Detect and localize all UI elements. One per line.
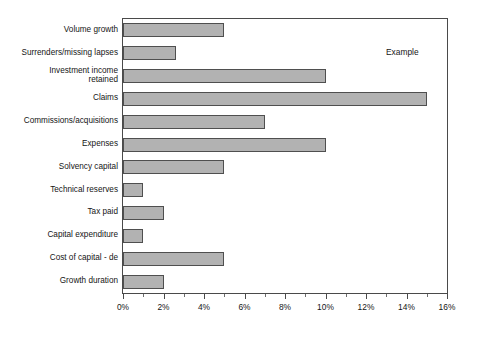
bar	[123, 115, 265, 129]
x-axis-tick	[407, 294, 408, 299]
x-axis-minor-tick	[224, 294, 225, 297]
category-label: Expenses	[0, 139, 118, 148]
x-axis-tick	[123, 294, 124, 299]
bar	[123, 252, 224, 266]
bar-chart: Volume growthSurrenders/missing lapsesIn…	[0, 0, 480, 338]
x-axis-tick-label: 2%	[157, 302, 169, 312]
bars-container	[123, 19, 447, 293]
x-axis-tick-label: 10%	[317, 302, 334, 312]
x-axis-minor-tick	[265, 294, 266, 297]
category-axis-labels: Volume growthSurrenders/missing lapsesIn…	[0, 18, 118, 294]
x-axis-tick	[164, 294, 165, 299]
x-axis-minor-tick	[143, 294, 144, 297]
bar	[123, 138, 326, 152]
bar	[123, 206, 164, 220]
bar	[123, 229, 143, 243]
x-axis-tick-label: 12%	[358, 302, 375, 312]
category-label: Growth duration	[0, 276, 118, 285]
category-label: Investment income retained	[0, 66, 118, 84]
x-axis-tick	[326, 294, 327, 299]
bar	[123, 160, 224, 174]
bar	[123, 275, 164, 289]
category-label: Capital expenditure	[0, 230, 118, 239]
bar	[123, 92, 427, 106]
category-label: Technical reserves	[0, 185, 118, 194]
category-label: Commissions/acquisitions	[0, 116, 118, 125]
x-axis-minor-tick	[427, 294, 428, 297]
x-axis-tick	[366, 294, 367, 299]
x-axis-tick-label: 16%	[439, 302, 456, 312]
x-axis-tick-label: 0%	[117, 302, 129, 312]
category-label: Surrenders/missing lapses	[0, 48, 118, 57]
bar	[123, 183, 143, 197]
x-axis-tick	[245, 294, 246, 299]
x-axis-minor-tick	[346, 294, 347, 297]
bar	[123, 46, 176, 60]
chart-title-cutoff	[95, 0, 425, 8]
category-label: Solvency capital	[0, 162, 118, 171]
x-axis-tick	[447, 294, 448, 299]
x-axis-tick-label: 8%	[279, 302, 291, 312]
x-axis-minor-tick	[386, 294, 387, 297]
x-axis-tick-label: 14%	[398, 302, 415, 312]
category-label: Cost of capital - de	[0, 253, 118, 262]
bar	[123, 69, 326, 83]
bar	[123, 23, 224, 37]
x-axis-tick	[285, 294, 286, 299]
x-axis-minor-tick	[305, 294, 306, 297]
x-axis-tick-label: 4%	[198, 302, 210, 312]
x-axis-tick-label: 6%	[238, 302, 250, 312]
category-label: Volume growth	[0, 25, 118, 34]
category-label: Tax paid	[0, 207, 118, 216]
x-axis-tick	[204, 294, 205, 299]
example-annotation: Example	[386, 47, 419, 57]
x-axis-minor-tick	[184, 294, 185, 297]
category-label: Claims	[0, 93, 118, 102]
